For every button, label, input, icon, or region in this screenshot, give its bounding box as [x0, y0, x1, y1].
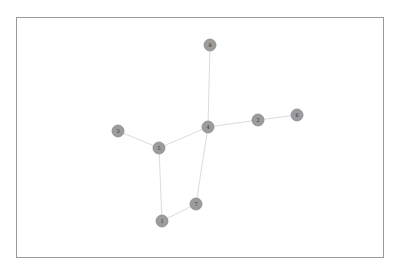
node-5[interactable]: 5	[153, 142, 165, 154]
node-label: 5	[157, 145, 160, 151]
node-6[interactable]: 6	[291, 109, 303, 121]
node-7[interactable]: 7	[190, 198, 202, 210]
node-label: 6	[295, 112, 298, 118]
node-label: 2	[256, 117, 259, 123]
node-4[interactable]: 4	[202, 121, 214, 133]
node-2[interactable]: 2	[252, 114, 264, 126]
node-8[interactable]: 8	[204, 39, 216, 51]
node-3[interactable]: 3	[112, 125, 124, 137]
node-label: 8	[208, 42, 211, 48]
graph-canvas: 84263571	[0, 0, 401, 272]
node-label: 3	[116, 128, 119, 134]
node-label: 7	[194, 201, 197, 207]
graph-frame	[17, 18, 384, 258]
node-1[interactable]: 1	[156, 215, 168, 227]
node-label: 1	[160, 218, 163, 224]
node-label: 4	[206, 124, 209, 130]
